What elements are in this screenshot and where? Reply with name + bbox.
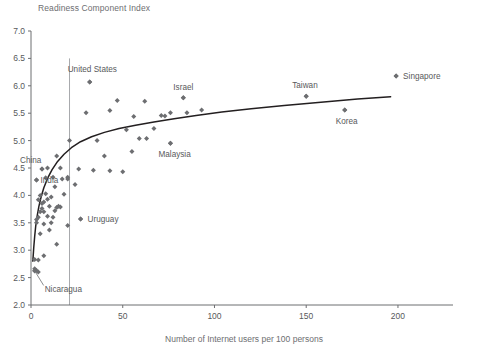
data-point bbox=[58, 166, 63, 171]
chart-canvas: 2.02.53.03.54.04.55.05.56.06.57.00501001… bbox=[0, 0, 488, 352]
data-point-labeled bbox=[78, 216, 83, 221]
data-point bbox=[144, 136, 149, 141]
data-point bbox=[45, 214, 50, 219]
data-point bbox=[62, 192, 67, 197]
y-tick-label: 3.0 bbox=[13, 245, 25, 255]
x-tick-label: 50 bbox=[118, 311, 128, 321]
data-point bbox=[137, 136, 142, 141]
data-point bbox=[51, 215, 56, 220]
data-point-label: Nicaragua bbox=[45, 285, 83, 294]
data-point bbox=[95, 138, 100, 143]
data-point-label: Uruguay bbox=[88, 215, 120, 224]
data-point bbox=[107, 168, 112, 173]
data-point-label: United States bbox=[68, 65, 117, 74]
x-tick-label: 150 bbox=[299, 311, 313, 321]
data-point-labeled bbox=[87, 79, 92, 84]
data-point bbox=[168, 110, 173, 115]
data-point bbox=[54, 153, 59, 158]
data-point bbox=[47, 227, 52, 232]
data-point bbox=[115, 98, 120, 103]
scatter-chart: Readiness Component Index 2.02.53.03.54.… bbox=[0, 0, 488, 352]
data-point bbox=[102, 153, 107, 158]
y-tick-label: 3.5 bbox=[13, 218, 25, 228]
data-point bbox=[76, 167, 81, 172]
data-point-label: Korea bbox=[336, 117, 358, 126]
data-point bbox=[120, 169, 125, 174]
data-point-label: Israel bbox=[173, 83, 193, 92]
data-point bbox=[67, 138, 72, 143]
data-point bbox=[184, 110, 189, 115]
data-point-label: China bbox=[20, 156, 42, 165]
data-point bbox=[47, 204, 52, 209]
data-point bbox=[49, 220, 54, 225]
x-tick-label: 200 bbox=[391, 311, 405, 321]
data-point bbox=[34, 220, 39, 225]
data-point-label: India bbox=[41, 176, 59, 185]
y-tick-label: 6.0 bbox=[13, 81, 25, 91]
data-point bbox=[60, 176, 65, 181]
data-point-label: Malaysia bbox=[158, 150, 191, 159]
data-point bbox=[43, 191, 48, 196]
data-point bbox=[131, 114, 136, 119]
y-tick-label: 5.0 bbox=[13, 136, 25, 146]
data-point-labeled bbox=[168, 141, 173, 146]
data-point bbox=[73, 182, 78, 187]
data-point bbox=[129, 149, 134, 154]
data-point-labeled bbox=[342, 107, 347, 112]
data-point-labeled bbox=[34, 178, 39, 183]
y-tick-label: 5.5 bbox=[13, 108, 25, 118]
data-point bbox=[162, 113, 167, 118]
data-point bbox=[41, 253, 46, 258]
data-point-labeled bbox=[181, 95, 186, 100]
x-tick-label: 0 bbox=[29, 311, 34, 321]
y-tick-label: 2.5 bbox=[13, 273, 25, 283]
data-point bbox=[41, 221, 46, 226]
leader-line bbox=[36, 272, 44, 285]
x-tick-label: 100 bbox=[207, 311, 221, 321]
y-tick-label: 4.0 bbox=[13, 190, 25, 200]
y-tick-label: 7.0 bbox=[13, 26, 25, 36]
data-point bbox=[142, 99, 147, 104]
data-point bbox=[45, 166, 50, 171]
data-point bbox=[151, 126, 156, 131]
data-point-labeled bbox=[40, 167, 45, 172]
data-point-label: Singapore bbox=[403, 72, 441, 81]
x-axis-title: Number of Internet users per 100 persons bbox=[0, 334, 488, 344]
data-point bbox=[107, 108, 112, 113]
y-tick-label: 2.0 bbox=[13, 300, 25, 310]
y-tick-label: 6.5 bbox=[13, 53, 25, 63]
data-point-labeled bbox=[304, 94, 309, 99]
data-point bbox=[38, 231, 43, 236]
data-point bbox=[91, 168, 96, 173]
data-point-label: Taiwan bbox=[292, 81, 318, 90]
data-point bbox=[84, 110, 89, 115]
data-point-labeled bbox=[394, 73, 399, 78]
data-point bbox=[199, 107, 204, 112]
data-point bbox=[54, 242, 59, 247]
